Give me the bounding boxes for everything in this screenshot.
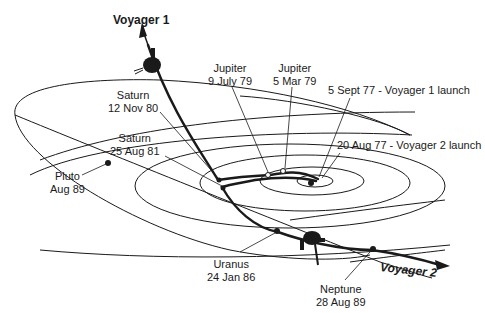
- voyager-1-spacecraft-icon: [134, 48, 161, 74]
- saturn-v2-label: Saturn 25 Aug 81: [110, 132, 160, 158]
- pluto-date: Aug 89: [50, 183, 85, 196]
- voyager-1-label: Voyager 1: [113, 14, 169, 27]
- pluto-label: Pluto Aug 89: [50, 170, 85, 196]
- saturn-v2-date: 25 Aug 81: [110, 145, 160, 158]
- neptune-label: Neptune 28 Aug 89: [316, 283, 366, 309]
- voyager-2-spacecraft-icon: [300, 231, 325, 265]
- saturn-v1-marker: [217, 178, 222, 183]
- jupiter-v2-label: Jupiter 5 Mar 79: [273, 62, 316, 88]
- jupiter-v1-date: 9 July 79: [208, 75, 252, 88]
- saturn-v1-date: 12 Nov 80: [108, 102, 158, 115]
- uranus-label: Uranus 24 Jan 86: [207, 258, 255, 284]
- uranus-date: 24 Jan 86: [207, 271, 255, 284]
- uranus-orbit-lower: [40, 245, 450, 257]
- jupiter-v1-planet: Jupiter: [208, 62, 252, 75]
- neptune-orbit-top: [40, 112, 415, 160]
- saturn-orbit: [135, 144, 445, 228]
- neptune-date: 28 Aug 89: [316, 296, 366, 309]
- saturn-v1-planet: Saturn: [108, 89, 158, 102]
- jupiter-v1-marker: [266, 173, 271, 178]
- jupiter-v1-label: Jupiter 9 July 79: [208, 62, 252, 88]
- voyager-2-launch-label: 20 Aug 77 - Voyager 2 launch: [337, 139, 481, 152]
- jupiter-v2-marker: [281, 169, 286, 174]
- voyager-2-trajectory: [222, 178, 440, 265]
- saturn-v2-planet: Saturn: [110, 132, 160, 145]
- jupiter-v2-date: 5 Mar 79: [273, 75, 316, 88]
- pluto-marker: [105, 160, 111, 166]
- voyager-1-launch-label: 5 Sept 77 - Voyager 1 launch: [328, 84, 470, 97]
- saturn-v2-marker: [221, 186, 226, 191]
- neptune-planet: Neptune: [316, 283, 366, 296]
- jupiter-v2-planet: Jupiter: [273, 62, 316, 75]
- uranus-planet: Uranus: [207, 258, 255, 271]
- neptune-marker: [370, 246, 376, 252]
- saturn-v1-label: Saturn 12 Nov 80: [108, 89, 158, 115]
- pluto-planet: Pluto: [50, 170, 85, 183]
